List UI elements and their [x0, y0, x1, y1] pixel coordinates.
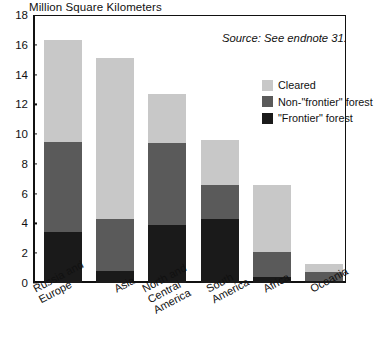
y-axis-tick-label: 16 — [15, 39, 33, 51]
bar-group — [44, 15, 82, 283]
bar-segment — [96, 58, 134, 219]
chart-figure: Million Square Kilometers 02468101214161… — [0, 0, 379, 350]
bar-group — [148, 15, 186, 283]
legend-item: Non-"frontier" forest — [262, 95, 373, 109]
legend-label: "Frontier" forest — [278, 112, 353, 124]
y-axis-tick-label: 12 — [15, 98, 33, 110]
legend-swatch — [262, 80, 273, 91]
bar-segment — [253, 185, 291, 252]
legend-swatch — [262, 96, 273, 107]
y-axis-tick-label: 10 — [15, 128, 33, 140]
y-axis-tick-label: 4 — [22, 217, 33, 229]
chart-axis-title: Million Square Kilometers — [29, 1, 162, 13]
bar-segment — [44, 40, 82, 141]
bar-segment — [148, 94, 186, 143]
legend-item: Cleared — [262, 78, 373, 92]
bar-group — [201, 15, 239, 283]
bar-segment — [148, 143, 186, 225]
bar-group — [96, 15, 134, 283]
bar-segment — [201, 140, 239, 185]
bar-segment — [44, 142, 82, 233]
chart-legend: ClearedNon-"frontier" forest"Frontier" f… — [262, 78, 373, 128]
y-axis-tick-label: 6 — [22, 188, 33, 200]
bar-segment — [201, 185, 239, 219]
legend-item: "Frontier" forest — [262, 111, 373, 125]
plot-area: 024681012141618 — [33, 15, 346, 283]
x-axis-labels: Russia and EuropeAsiaNorth and Central A… — [33, 284, 346, 348]
bar-group — [253, 15, 291, 283]
y-axis-tick-label: 18 — [15, 9, 33, 21]
legend-label: Cleared — [278, 79, 316, 91]
legend-label: Non-"frontier" forest — [278, 96, 373, 108]
bar-group — [305, 15, 343, 283]
bar-series-container — [33, 15, 346, 283]
source-note: Source: See endnote 31. — [222, 32, 347, 44]
y-axis-tick-label: 14 — [15, 69, 33, 81]
legend-swatch — [262, 113, 273, 124]
bar-segment — [96, 219, 134, 271]
y-axis-tick-label: 2 — [22, 247, 33, 259]
y-axis-tick-label: 8 — [22, 158, 33, 170]
